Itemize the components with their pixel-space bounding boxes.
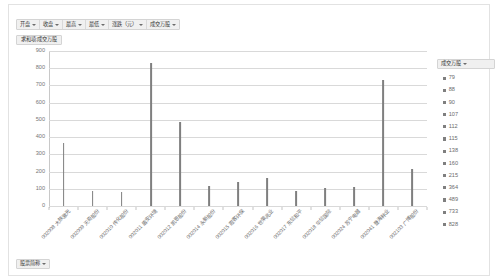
x-axis-tick-label: 002009 天奇股份 bbox=[69, 209, 100, 240]
filter-low-price[interactable]: 最低 bbox=[86, 20, 109, 29]
y-axis-tick-label: 400 bbox=[36, 134, 45, 140]
axis-field-button[interactable]: 股票简称 bbox=[16, 259, 50, 269]
chevron-down-icon bbox=[55, 24, 59, 26]
chart-bar[interactable] bbox=[412, 169, 414, 206]
chevron-down-icon bbox=[32, 24, 36, 26]
legend-item: 88 bbox=[437, 84, 495, 96]
legend-item: 90 bbox=[437, 96, 495, 108]
x-axis-tick-label: 002018 华信国际 bbox=[302, 209, 333, 240]
chart-bar[interactable] bbox=[208, 186, 210, 206]
legend: 成交万股 79889010711211513816021536448973382… bbox=[437, 59, 495, 230]
legend-swatch bbox=[443, 101, 446, 104]
chevron-down-icon bbox=[463, 63, 467, 65]
y-axis-tick-label: 0 bbox=[42, 203, 45, 209]
x-axis-tick-label: 002011 盾安环境 bbox=[128, 209, 159, 240]
legend-item-label: 828 bbox=[449, 222, 458, 228]
filter-button-label: 收盘 bbox=[43, 22, 53, 27]
chart-bar[interactable] bbox=[63, 143, 65, 206]
chart-bar[interactable] bbox=[295, 191, 297, 207]
y-axis-tick-label: 900 bbox=[36, 48, 45, 54]
legend-item-label: 88 bbox=[449, 87, 455, 93]
filter-change-yuan[interactable]: 涨跌（元） bbox=[109, 20, 147, 29]
gridline bbox=[49, 51, 427, 52]
legend-item: 115 bbox=[437, 133, 495, 145]
legend-item-label: 112 bbox=[449, 124, 458, 130]
chevron-down-icon bbox=[78, 24, 82, 26]
legend-swatch bbox=[443, 198, 446, 201]
legend-item: 733 bbox=[437, 206, 495, 218]
x-axis-tick-label: 002014 永新股份 bbox=[186, 209, 217, 240]
chart-bar[interactable] bbox=[92, 191, 94, 206]
legend-item-label: 160 bbox=[449, 161, 458, 167]
chart-bar[interactable] bbox=[150, 63, 152, 206]
legend-item-label: 79 bbox=[449, 75, 455, 81]
filter-button-label: 最低 bbox=[89, 22, 99, 27]
chart-bar[interactable] bbox=[324, 188, 326, 206]
legend-swatch bbox=[443, 137, 446, 140]
y-axis-tick-label: 600 bbox=[36, 100, 45, 106]
chart-bar[interactable] bbox=[237, 182, 239, 206]
y-axis-tick-label: 200 bbox=[36, 169, 45, 175]
pivot-chart-frame: 开盘收盘最高最低涨跌（元）成交万股 求和项:成交万股 0100200300400… bbox=[8, 4, 490, 276]
gridline bbox=[49, 154, 427, 155]
axis-field-label: 股票简称 bbox=[20, 261, 40, 266]
filter-toolbar: 开盘收盘最高最低涨跌（元）成交万股 bbox=[16, 19, 180, 30]
y-axis-tick-label: 700 bbox=[36, 83, 45, 89]
value-field-label: 求和项:成交万股 bbox=[21, 37, 57, 42]
gridline bbox=[49, 137, 427, 138]
x-axis-tick-label: 002024 苏宁电器 bbox=[331, 209, 362, 240]
legend-item-label: 733 bbox=[449, 209, 458, 215]
chart-bar[interactable] bbox=[266, 178, 268, 206]
y-axis-tick-label: 500 bbox=[36, 117, 45, 123]
x-axis-tick-label: 002016 世荣兆业 bbox=[244, 209, 275, 240]
legend-item-label: 215 bbox=[449, 173, 458, 179]
chart-bar[interactable] bbox=[179, 122, 181, 206]
chevron-down-icon bbox=[172, 24, 176, 26]
chevron-down-icon bbox=[42, 263, 46, 265]
y-axis-tick-label: 800 bbox=[36, 65, 45, 71]
chart-bar[interactable] bbox=[121, 192, 123, 206]
legend-item: 138 bbox=[437, 145, 495, 157]
filter-high-price[interactable]: 最高 bbox=[63, 20, 86, 29]
filter-volume[interactable]: 成交万股 bbox=[147, 20, 179, 29]
legend-swatch bbox=[443, 113, 446, 116]
x-axis-labels: 002008 大族激光002009 天奇股份002010 传化股份002011 … bbox=[49, 209, 427, 259]
legend-item-label: 364 bbox=[449, 185, 458, 191]
chart-bar[interactable] bbox=[353, 187, 355, 206]
gridline bbox=[49, 85, 427, 86]
gridline bbox=[49, 120, 427, 121]
legend-item: 489 bbox=[437, 194, 495, 206]
value-field-button[interactable]: 求和项:成交万股 bbox=[16, 35, 62, 45]
gridline bbox=[49, 172, 427, 173]
legend-item: 79 bbox=[437, 72, 495, 84]
legend-item: 828 bbox=[437, 218, 495, 230]
x-axis-tick-label: 002017 东信和平 bbox=[273, 209, 304, 240]
filter-button-label: 涨跌（元） bbox=[112, 22, 137, 27]
legend-item-label: 107 bbox=[449, 112, 458, 118]
filter-open-price[interactable]: 开盘 bbox=[17, 20, 40, 29]
y-axis-tick-label: 300 bbox=[36, 152, 45, 158]
filter-close-price[interactable]: 收盘 bbox=[40, 20, 63, 29]
y-axis-tick-label: 100 bbox=[36, 186, 45, 192]
legend-swatch bbox=[443, 186, 446, 189]
legend-filter-button[interactable]: 成交万股 bbox=[437, 59, 495, 69]
plot-area: 0100200300400500600700800900 bbox=[49, 52, 427, 207]
x-axis-tick-label: 002103 广博股份 bbox=[389, 209, 420, 240]
legend-swatch bbox=[443, 150, 446, 153]
legend-item-label: 138 bbox=[449, 148, 458, 154]
chart-bar[interactable] bbox=[382, 80, 384, 206]
x-axis-tick-label: 002041 登海种业 bbox=[360, 209, 391, 240]
gridline bbox=[49, 103, 427, 104]
legend-swatch bbox=[443, 223, 446, 226]
legend-swatch bbox=[443, 125, 446, 128]
legend-item: 160 bbox=[437, 157, 495, 169]
legend-swatch bbox=[443, 211, 446, 214]
legend-item: 107 bbox=[437, 109, 495, 121]
legend-item-label: 489 bbox=[449, 197, 458, 203]
legend-title: 成交万股 bbox=[441, 61, 461, 66]
x-axis-tick-label: 002008 大族激光 bbox=[40, 209, 71, 240]
filter-button-label: 开盘 bbox=[20, 22, 30, 27]
legend-swatch bbox=[443, 77, 446, 80]
chevron-down-icon bbox=[101, 24, 105, 26]
legend-swatch bbox=[443, 162, 446, 165]
